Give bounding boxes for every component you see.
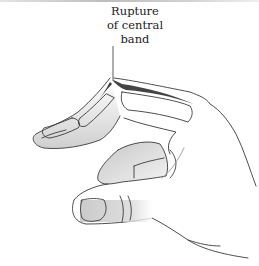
- hand-illustration: [0, 0, 259, 266]
- curled-finger: [98, 142, 168, 184]
- thumb-shade: [80, 200, 152, 222]
- proximal-phalanx-bone: [121, 92, 192, 122]
